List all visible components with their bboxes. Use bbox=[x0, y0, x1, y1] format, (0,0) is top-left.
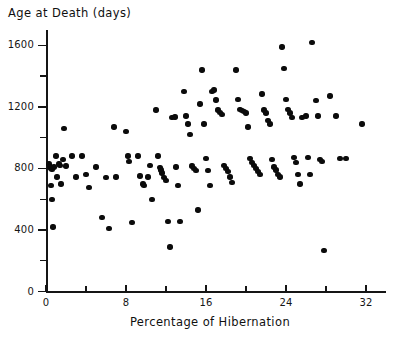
data-point bbox=[297, 181, 302, 186]
data-point bbox=[257, 172, 262, 177]
data-point bbox=[333, 113, 338, 118]
data-point bbox=[289, 115, 294, 120]
y-tick-label: 800 bbox=[0, 162, 34, 173]
data-point bbox=[111, 124, 116, 129]
data-point bbox=[359, 121, 364, 126]
data-point bbox=[205, 168, 210, 173]
data-point bbox=[177, 219, 182, 224]
data-point bbox=[106, 226, 111, 231]
data-point bbox=[183, 113, 188, 118]
data-point bbox=[321, 248, 326, 253]
x-tick-label: 16 bbox=[186, 297, 226, 308]
data-point bbox=[155, 153, 160, 158]
data-point bbox=[73, 174, 78, 179]
data-point bbox=[277, 174, 282, 179]
x-tick-label: 8 bbox=[106, 297, 146, 308]
data-point bbox=[61, 126, 66, 131]
data-point bbox=[295, 172, 300, 177]
y-tick-label: 400 bbox=[0, 224, 34, 235]
data-point bbox=[279, 44, 284, 49]
data-point bbox=[185, 121, 190, 126]
data-point bbox=[195, 207, 200, 212]
data-point bbox=[227, 174, 232, 179]
data-point bbox=[281, 66, 286, 71]
data-point bbox=[129, 220, 134, 225]
data-point bbox=[213, 97, 218, 102]
data-point bbox=[181, 89, 186, 94]
data-point bbox=[173, 164, 178, 169]
data-point bbox=[103, 175, 108, 180]
x-tick-label: 32 bbox=[346, 297, 386, 308]
y-tick-label: 1600 bbox=[0, 39, 34, 50]
data-point bbox=[187, 132, 192, 137]
data-point bbox=[126, 159, 131, 164]
data-point bbox=[172, 114, 177, 119]
data-point bbox=[259, 91, 264, 96]
data-point bbox=[269, 157, 274, 162]
plot-points-area bbox=[46, 30, 386, 292]
y-tick-major bbox=[38, 168, 46, 169]
data-point bbox=[48, 183, 53, 188]
data-point bbox=[283, 97, 288, 102]
data-point bbox=[153, 107, 158, 112]
data-point bbox=[229, 180, 234, 185]
data-point bbox=[93, 164, 98, 169]
data-point bbox=[123, 129, 128, 134]
scatter-plot-figure: Age at Death (days) 040080012001600 0816… bbox=[0, 0, 420, 338]
data-point bbox=[235, 97, 240, 102]
y-tick-major bbox=[38, 45, 46, 46]
data-point bbox=[233, 67, 238, 72]
data-point bbox=[309, 40, 314, 45]
data-point bbox=[135, 153, 140, 158]
data-point bbox=[201, 121, 206, 126]
data-point bbox=[99, 215, 104, 220]
x-axis-title: Percentage of Hibernation bbox=[0, 315, 420, 329]
data-point bbox=[219, 112, 224, 117]
data-point bbox=[307, 172, 312, 177]
y-axis-title: Age at Death (days) bbox=[8, 6, 131, 20]
data-point bbox=[337, 156, 342, 161]
data-point bbox=[193, 168, 198, 173]
data-point bbox=[63, 163, 68, 168]
data-point bbox=[243, 110, 248, 115]
data-point bbox=[167, 244, 172, 249]
data-point bbox=[293, 160, 298, 165]
data-point bbox=[319, 159, 324, 164]
data-point bbox=[113, 174, 118, 179]
y-tick-major bbox=[38, 229, 46, 230]
data-point bbox=[86, 185, 91, 190]
data-point bbox=[137, 173, 142, 178]
data-point bbox=[50, 224, 55, 229]
data-point bbox=[199, 67, 204, 72]
data-point bbox=[79, 153, 84, 158]
data-point bbox=[163, 178, 168, 183]
data-point bbox=[303, 113, 308, 118]
data-point bbox=[147, 163, 152, 168]
data-point bbox=[165, 219, 170, 224]
y-tick-label: 1200 bbox=[0, 101, 34, 112]
x-tick-label: 0 bbox=[26, 297, 66, 308]
data-point bbox=[54, 174, 59, 179]
data-point bbox=[203, 156, 208, 161]
data-point bbox=[175, 183, 180, 188]
data-point bbox=[245, 124, 250, 129]
data-point bbox=[211, 87, 216, 92]
data-point bbox=[53, 153, 58, 158]
data-point bbox=[263, 110, 268, 115]
data-point bbox=[149, 197, 154, 202]
y-tick-label: 0 bbox=[0, 286, 34, 297]
data-point bbox=[267, 121, 272, 126]
data-point bbox=[57, 163, 62, 168]
data-point bbox=[49, 197, 54, 202]
data-point bbox=[58, 181, 63, 186]
data-point bbox=[141, 183, 146, 188]
data-point bbox=[145, 174, 150, 179]
data-point bbox=[343, 156, 348, 161]
data-point bbox=[197, 101, 202, 106]
data-point bbox=[315, 113, 320, 118]
x-tick-label: 24 bbox=[266, 297, 306, 308]
data-point bbox=[69, 153, 74, 158]
y-tick-major bbox=[38, 106, 46, 107]
data-point bbox=[305, 155, 310, 160]
data-point bbox=[207, 183, 212, 188]
